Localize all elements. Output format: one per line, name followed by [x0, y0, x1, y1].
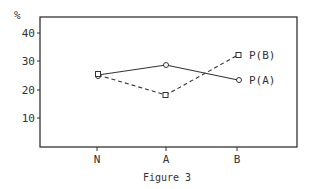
- y-axis-unit: %: [14, 9, 21, 22]
- x-tick-B: B: [234, 153, 241, 166]
- label-p-a: P(A): [249, 74, 276, 87]
- x-axis-ticks: N A B: [94, 147, 241, 166]
- chart: % 40 30 20 10 N A B P(B) P(A) Figure 3: [0, 0, 314, 189]
- y-tick-40: 40: [22, 27, 35, 40]
- series-p-b: [96, 53, 242, 98]
- y-axis-ticks: 40 30 20 10: [22, 27, 40, 125]
- y-tick-20: 20: [22, 84, 35, 97]
- x-tick-A: A: [163, 153, 170, 166]
- label-p-b: P(B): [249, 49, 276, 62]
- series-p-a: [96, 63, 242, 83]
- figure-caption: Figure 3: [143, 172, 191, 183]
- y-tick-30: 30: [22, 55, 35, 68]
- y-tick-10: 10: [22, 112, 35, 125]
- x-tick-N: N: [94, 153, 101, 166]
